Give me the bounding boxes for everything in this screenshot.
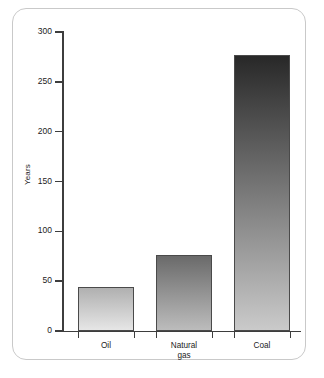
y-axis-tick-label: 150 — [0, 177, 52, 186]
category-label-line-1: Natural — [144, 341, 224, 351]
x-axis-tick-mark — [290, 331, 291, 338]
x-axis-category-label: Naturalgas — [144, 341, 224, 361]
y-axis-tick-mark — [55, 81, 62, 82]
bar-coal[interactable] — [234, 55, 290, 331]
y-axis-tick-label: 200 — [0, 127, 52, 136]
y-axis-line — [62, 31, 64, 332]
x-axis-category-label: Coal — [222, 341, 302, 351]
x-axis-tick-mark — [212, 331, 213, 338]
y-axis-tick-mark — [55, 231, 62, 232]
x-axis-category-label: Oil — [66, 341, 146, 351]
y-axis-tick-mark — [55, 330, 62, 331]
y-axis-tick-mark — [55, 131, 62, 132]
y-axis-tick-label: 50 — [0, 276, 52, 285]
y-axis-tick-label: 100 — [0, 226, 52, 235]
x-axis-tick-mark — [134, 331, 135, 338]
plot-area: Years 300250200150100500 OilNaturalgasCo… — [0, 0, 324, 378]
y-axis-tick-mark — [55, 280, 62, 281]
category-label-line-1: Oil — [66, 341, 146, 351]
bar-chart-figure: Years 300250200150100500 OilNaturalgasCo… — [0, 0, 324, 378]
y-axis-tick-label: 300 — [0, 27, 52, 36]
y-axis-tick-label: 0 — [0, 326, 52, 335]
category-label-line-2: gas — [144, 351, 224, 361]
x-axis-tick-mark — [156, 331, 157, 338]
y-axis-title: Years — [23, 145, 32, 205]
x-axis-tick-mark — [234, 331, 235, 338]
y-axis-tick-mark — [55, 31, 62, 32]
category-label-line-1: Coal — [222, 341, 302, 351]
y-axis-tick-label: 250 — [0, 77, 52, 86]
x-axis-tick-mark — [78, 331, 79, 338]
bar-natural-gas[interactable] — [156, 255, 212, 331]
y-axis-tick-mark — [55, 181, 62, 182]
bar-oil[interactable] — [78, 287, 134, 331]
